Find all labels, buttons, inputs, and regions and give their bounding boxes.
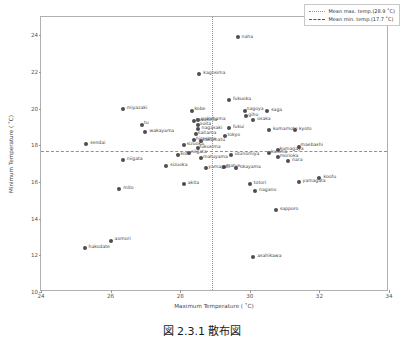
- mean-min-temp-line: [41, 151, 387, 152]
- x-tick-mark: [319, 290, 320, 293]
- legend-line-swatch: [309, 11, 325, 12]
- data-point: [143, 130, 147, 134]
- data-point: [297, 180, 301, 184]
- y-tick-mark: [39, 182, 42, 183]
- data-point-label: wakayama: [149, 129, 174, 134]
- data-point: [265, 109, 269, 113]
- data-point: [182, 182, 186, 186]
- y-tick-label: 14: [31, 216, 38, 222]
- data-point: [121, 107, 125, 111]
- data-point: [121, 158, 125, 162]
- x-tick-mark: [389, 290, 390, 293]
- data-point-label: okayama: [240, 165, 261, 170]
- y-tick-label: 20: [31, 106, 38, 112]
- data-point-label: koofu: [323, 175, 336, 180]
- data-point: [248, 182, 252, 186]
- data-point: [227, 126, 231, 130]
- data-point: [182, 143, 186, 147]
- legend-label: Mean min. temp.(17.7 ˚C): [328, 16, 393, 22]
- data-point-label: saga: [271, 108, 282, 113]
- data-point-label: totori: [254, 181, 266, 186]
- data-point-label: takamatu: [203, 138, 225, 143]
- data-point: [83, 246, 87, 250]
- data-point: [227, 98, 231, 102]
- y-tick-mark: [39, 145, 42, 146]
- data-point-label: sizuoka: [170, 163, 187, 168]
- data-point-label: osaka: [257, 117, 270, 122]
- x-tick-mark: [180, 290, 181, 293]
- y-tick-mark: [39, 255, 42, 256]
- x-tick-label: 24: [37, 293, 44, 299]
- y-tick-label: 16: [31, 179, 38, 185]
- data-point: [234, 166, 238, 170]
- data-point-label: kobe: [194, 107, 205, 112]
- x-tick-label: 30: [246, 293, 253, 299]
- legend: Mean max. temp.(28.9 ˚C)Mean min. temp.(…: [304, 4, 400, 26]
- data-point: [286, 159, 290, 163]
- data-point: [267, 128, 271, 132]
- y-tick-label: 22: [31, 69, 38, 75]
- data-point: [229, 153, 233, 157]
- data-point-label: utunomiya: [235, 152, 260, 157]
- data-point-label: sapporo: [280, 207, 298, 212]
- data-point-label: fukuoka: [233, 97, 251, 102]
- plot-area: nahakagosimafukuokamiyazakikobesaganagoy…: [40, 16, 388, 291]
- data-point-label: hakodate: [89, 245, 110, 250]
- legend-item: Mean max. temp.(28.9 ˚C): [309, 8, 395, 14]
- x-tick-mark: [250, 290, 251, 293]
- data-point-label: aomori: [115, 237, 131, 242]
- y-tick-label: 18: [31, 142, 38, 148]
- data-point-label: matuyama: [203, 155, 228, 160]
- x-tick-mark: [41, 290, 42, 293]
- mean-max-temp-line: [212, 17, 213, 290]
- data-point-label: tu: [144, 121, 149, 126]
- x-axis-label: Maximum Temperature ( ˚C): [40, 303, 388, 309]
- data-point: [84, 142, 88, 146]
- legend-label: Mean max. temp.(28.9 ˚C): [328, 8, 395, 14]
- y-axis-label-text: Minimum Temperature ( ˚C): [8, 115, 14, 193]
- data-point: [251, 118, 255, 122]
- data-point-label: sendai: [90, 141, 105, 146]
- data-point-label: niigata: [127, 157, 143, 162]
- data-point-label: kagosima: [203, 71, 225, 76]
- data-point-label: kyoto: [299, 127, 312, 132]
- data-point: [117, 187, 121, 191]
- data-point-label: nagano: [259, 188, 276, 193]
- data-point-label: naha: [242, 35, 253, 40]
- y-tick-mark: [39, 109, 42, 110]
- y-tick-mark: [39, 72, 42, 73]
- figure-caption: 図 2.3.1 散布図: [0, 322, 404, 338]
- data-point: [197, 72, 201, 76]
- data-point: [293, 128, 297, 132]
- data-point-label: miyazaki: [127, 106, 147, 111]
- data-point: [109, 239, 113, 243]
- data-point-label: mito: [123, 186, 133, 191]
- legend-item: Mean min. temp.(17.7 ˚C): [309, 16, 395, 22]
- data-point-label: nara: [292, 158, 302, 163]
- data-point-label: fukui: [233, 125, 244, 130]
- data-point: [251, 255, 255, 259]
- legend-line-swatch: [309, 19, 325, 20]
- scatter-figure: Minimum Temperature ( ˚C) nahakagosimafu…: [0, 0, 404, 348]
- data-point-label: yamagata: [303, 179, 326, 184]
- y-tick-label: 12: [31, 252, 38, 258]
- data-point: [196, 118, 200, 122]
- data-point-label: tokyo: [227, 133, 240, 138]
- y-tick-mark: [39, 219, 42, 220]
- y-tick-mark: [39, 35, 42, 36]
- data-point-label: asahikawa: [257, 254, 281, 259]
- x-tick-label: 28: [177, 293, 184, 299]
- data-point-label: akita: [188, 181, 199, 186]
- x-tick-label: 34: [385, 293, 392, 299]
- data-point: [236, 35, 240, 39]
- data-point: [164, 164, 168, 168]
- y-tick-label: 24: [31, 32, 38, 38]
- x-tick-mark: [111, 290, 112, 293]
- x-tick-label: 26: [107, 293, 114, 299]
- data-point: [274, 208, 278, 212]
- data-point: [253, 189, 257, 193]
- y-axis-label: Minimum Temperature ( ˚C): [6, 16, 16, 291]
- x-tick-label: 32: [316, 293, 323, 299]
